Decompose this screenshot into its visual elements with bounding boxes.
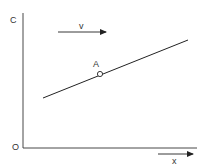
y-axis-label: C	[10, 15, 17, 25]
velocity-label: v	[79, 21, 84, 31]
point-a-marker	[97, 71, 102, 76]
point-a-label: A	[93, 59, 99, 69]
origin-label: O	[12, 142, 19, 152]
diagram-canvas: C O v x A	[0, 0, 207, 167]
x-axis-label: x	[172, 156, 177, 166]
profile-line	[43, 40, 188, 98]
